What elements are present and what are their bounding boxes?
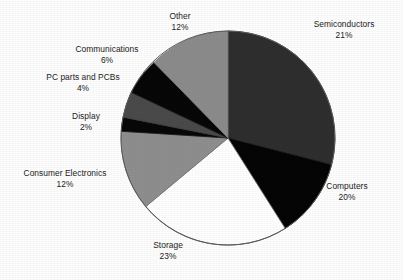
pie-label-other-name: Other [150,11,210,22]
pie-label-display-value: 2% [58,122,114,133]
pie-label-pc-parts-and-pcbs-value: 4% [28,83,138,94]
pie-label-other: Other 12% [150,11,210,32]
pie-label-consumer-electronics: Consumer Electronics 12% [4,168,126,189]
pie-label-consumer-electronics-name: Consumer Electronics [4,168,126,179]
pie-label-storage-name: Storage [140,240,196,251]
pie-label-communications: Communications 6% [58,44,156,65]
pie-label-semiconductors: Semiconductors 21% [298,19,390,40]
pie-label-computers-name: Computers [312,181,382,192]
pie-label-semiconductors-value: 21% [298,30,390,41]
pie-label-communications-value: 6% [58,55,156,66]
pie-label-computers-value: 20% [312,192,382,203]
pie-label-semiconductors-name: Semiconductors [298,19,390,30]
pie-label-pc-parts-and-pcbs: PC parts and PCBs 4% [28,72,138,93]
pie-label-consumer-electronics-value: 12% [4,179,126,190]
pie-label-communications-name: Communications [58,44,156,55]
pie-label-storage: Storage 23% [140,240,196,261]
pie-label-pc-parts-and-pcbs-name: PC parts and PCBs [28,72,138,83]
pie-chart-svg [0,0,403,280]
pie-label-display: Display 2% [58,111,114,132]
pie-label-other-value: 12% [150,22,210,33]
pie-label-computers: Computers 20% [312,181,382,202]
pie-label-storage-value: 23% [140,251,196,262]
pie-chart-figure: Other 12% Semiconductors 21% Communicati… [0,0,403,280]
pie-label-display-name: Display [58,111,114,122]
